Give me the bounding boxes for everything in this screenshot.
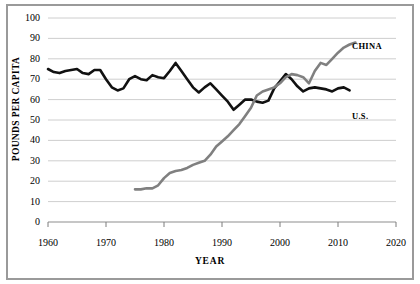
series-lines	[48, 42, 355, 189]
series-label-us: U.S.	[352, 111, 368, 121]
series-label-china: CHINA	[352, 41, 382, 51]
series-line-china	[135, 42, 355, 189]
x-axis-tick-marks	[48, 222, 396, 227]
series-line-us	[48, 63, 350, 110]
chart-container: POUNDS PER CAPITA YEAR 01020304050607080…	[0, 0, 420, 284]
